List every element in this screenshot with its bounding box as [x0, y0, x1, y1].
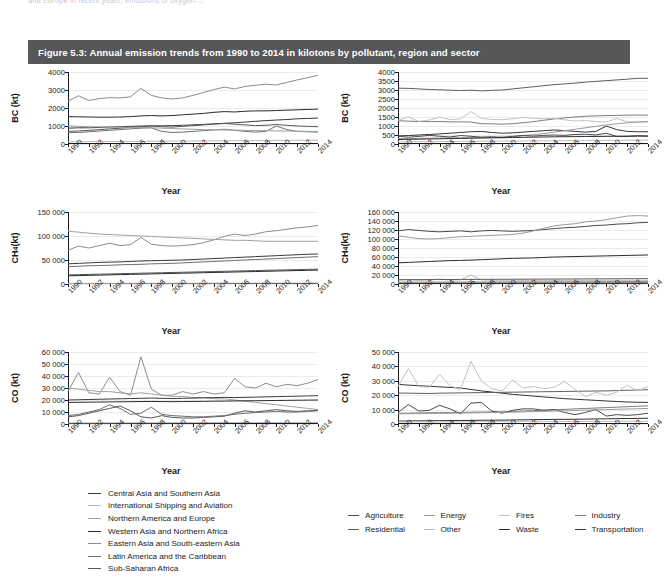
y-tick-label: 60 000: [372, 254, 395, 261]
legend-item-label: Transportation: [592, 525, 644, 534]
x-tick-label: 2014: [646, 137, 664, 155]
series-layer: [68, 72, 318, 144]
y-tick-label: 100 000: [368, 236, 395, 243]
legend-line-swatch-icon: [88, 493, 101, 494]
legend-region-item[interactable]: Eastern Asia and South-eastern Asia: [88, 537, 338, 550]
y-axis-ticks: 050 000100 000150 000: [9, 206, 65, 346]
y-tick-label: 60 000: [42, 349, 65, 356]
y-tick-label: 80 000: [372, 245, 395, 252]
legend-item-label: Fires: [516, 511, 534, 520]
legend-sector-item[interactable]: Waste: [499, 522, 573, 536]
series-line: [68, 400, 318, 402]
legend-region-item[interactable]: Western Asia and Northern Africa: [88, 525, 338, 538]
y-tick-label: 2500: [378, 96, 395, 103]
x-tick-label: 2014: [316, 277, 334, 295]
series-line: [68, 269, 318, 275]
y-tick-label: 10 000: [42, 409, 65, 416]
x-axis-title: Year: [336, 186, 666, 196]
x-axis-title: Year: [336, 466, 666, 476]
chart-ch4-regions: CH4 (kt)050 000100 000150 00019901992199…: [6, 206, 336, 346]
y-tick-label: 4000: [48, 69, 65, 76]
legend-region-item[interactable]: Latin America and the Caribbean: [88, 550, 338, 563]
legend-item-label: Sub-Saharan Africa: [108, 564, 178, 573]
legend-region-item[interactable]: Northern America and Europe: [88, 512, 338, 525]
legend-line-swatch-icon: [88, 568, 101, 569]
y-axis-ticks: 010 00020 00030 00040 00050 000: [339, 346, 395, 486]
legend-sector-item[interactable]: Fires: [499, 508, 573, 522]
y-tick-label: 40 000: [372, 263, 395, 270]
series-line: [398, 115, 648, 124]
x-axis-title: Year: [6, 326, 336, 336]
y-tick-label: 2000: [48, 105, 65, 112]
x-axis-title: Year: [6, 466, 336, 476]
x-tick-label: 2014: [646, 277, 664, 295]
plot-panel: CH4 (kt)020 00040 00060 00080 000100 000…: [336, 206, 666, 346]
legend-sector-item[interactable]: Other: [424, 522, 498, 536]
series-line: [68, 405, 318, 417]
legend-line-swatch-icon: [88, 556, 101, 557]
legend-item-label: Northern America and Europe: [108, 514, 215, 523]
running-text-cut-off: and Europe in recent years, emissions of…: [28, 0, 448, 6]
series-layer: [68, 352, 318, 424]
y-tick-label: 2000: [378, 105, 395, 112]
plot-area: [68, 72, 318, 144]
y-tick-label: 1000: [378, 123, 395, 130]
legend-sector-item[interactable]: Energy: [424, 508, 498, 522]
legend-line-swatch-icon: [424, 529, 435, 530]
y-tick-label: 120 000: [368, 227, 395, 234]
y-tick-label: 40 000: [42, 373, 65, 380]
legend-item-label: Residential: [365, 525, 405, 534]
series-layer: [398, 212, 648, 284]
legend-line-swatch-icon: [575, 515, 586, 516]
figure-caption-text: Figure 5.3: Annual emission trends from …: [28, 47, 480, 58]
series-line: [398, 390, 648, 394]
plot-panel: BC (kt)050010001500200025003000350040001…: [336, 66, 666, 206]
plot-area: [398, 352, 648, 424]
series-line: [398, 222, 648, 231]
x-tick-label: 2014: [316, 417, 334, 435]
legend-line-swatch-icon: [88, 505, 101, 506]
legend-item-label: Energy: [441, 511, 467, 520]
legend-line-swatch-icon: [88, 518, 101, 519]
plot-area: [398, 212, 648, 284]
series-layer: [398, 72, 648, 144]
series-line: [68, 357, 318, 395]
chart-ch4-sectors: CH4 (kt)020 00040 00060 00080 000100 000…: [336, 206, 666, 346]
series-line: [68, 75, 318, 101]
y-tick-label: 1500: [378, 114, 395, 121]
legend-region-item[interactable]: Sub-Saharan Africa: [88, 563, 338, 576]
x-tick-label: 2014: [316, 137, 334, 155]
y-tick-label: 3500: [378, 78, 395, 85]
legend-line-swatch-icon: [499, 515, 510, 516]
y-axis-ticks: 020 00040 00060 00080 000100 000120 0001…: [339, 206, 395, 346]
x-tick-label: 2014: [646, 417, 664, 435]
chart-bc-regions: BC (kt)010002000300040001990199219941996…: [6, 66, 336, 206]
legend-item-label: Agriculture: [365, 511, 404, 520]
plot-panel: CH4 (kt)050 000100 000150 00019901992199…: [6, 206, 336, 346]
y-tick-label: 500: [382, 132, 395, 139]
y-tick-label: 160 000: [368, 209, 395, 216]
legend-region-item[interactable]: Central Asia and Southern Asia: [88, 487, 338, 500]
series-line: [68, 231, 318, 241]
legend-sector-item[interactable]: Residential: [348, 522, 422, 536]
legend-regions: Central Asia and Southern AsiaInternatio…: [88, 487, 338, 575]
legend-region-item[interactable]: International Shipping and Aviation: [88, 500, 338, 513]
legend-line-swatch-icon: [348, 529, 359, 530]
legend-sector-item[interactable]: Agriculture: [348, 508, 422, 522]
y-tick-label: 1000: [48, 123, 65, 130]
plot-area: [68, 352, 318, 424]
legend-sector-item[interactable]: Industry: [575, 508, 649, 522]
series-layer: [68, 212, 318, 284]
legend-sectors: AgricultureEnergyFiresIndustryResidentia…: [348, 508, 648, 536]
y-tick-label: 10 000: [372, 406, 395, 413]
series-line: [398, 216, 648, 239]
legend-line-swatch-icon: [424, 515, 435, 516]
chart-bc-sectors: BC (kt)050010001500200025003000350040001…: [336, 66, 666, 206]
y-tick-label: 50 000: [42, 361, 65, 368]
legend-line-swatch-icon: [348, 515, 359, 516]
legend-line-swatch-icon: [88, 543, 101, 544]
y-tick-label: 20 000: [372, 272, 395, 279]
series-line: [68, 257, 318, 267]
legend-sector-item[interactable]: Transportation: [575, 522, 649, 536]
